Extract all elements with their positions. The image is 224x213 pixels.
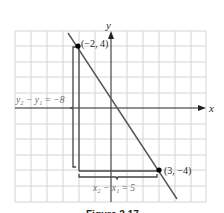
x-axis-arrow-icon <box>198 105 206 111</box>
rise-label: y₂ − y₁ = −8 <box>15 95 65 105</box>
rise-run-bracket <box>71 46 159 179</box>
figure-caption: Figure 2.17 <box>86 209 139 213</box>
point-b <box>156 167 161 172</box>
graph-line <box>68 33 177 199</box>
point-a-label: (−2, 4) <box>81 38 108 50</box>
run-label: x₂ − x₁ = 5 <box>92 183 135 193</box>
point-b-label: (3, −4) <box>164 165 191 177</box>
y-axis-arrow-icon <box>108 31 114 39</box>
slope-figure: y x (−2, 4) (3, −4) y₂ − y₁ = −8 x₂ − x₁… <box>0 0 224 213</box>
y-axis-label: y <box>105 19 111 31</box>
point-a <box>75 43 80 48</box>
x-axis-label: x <box>208 102 214 114</box>
